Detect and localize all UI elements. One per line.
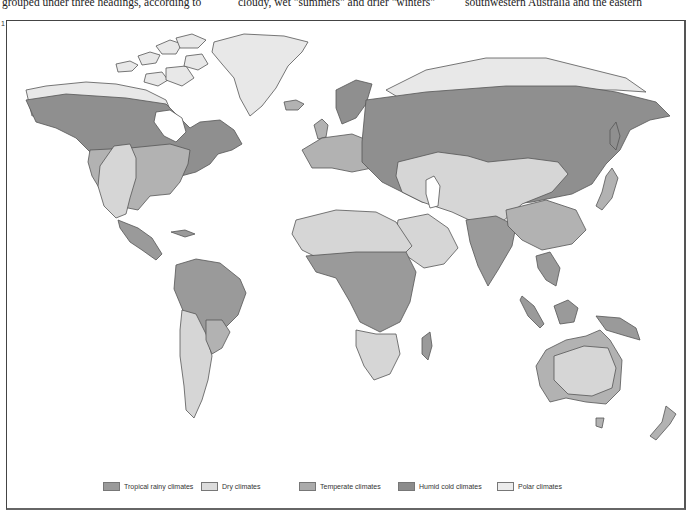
canadian-arctic-islands — [116, 34, 208, 86]
legend-label: Polar climates — [518, 483, 562, 490]
legend-label: Tropical rainy climates — [124, 483, 193, 490]
legend-label: Temperate climates — [320, 483, 381, 490]
borneo — [554, 300, 578, 324]
southeast-asia — [536, 252, 560, 286]
world-climate-map — [6, 20, 686, 480]
legend-swatch-humid-cold — [398, 482, 415, 491]
header-col-1: grouped under three headings, according … — [2, 0, 201, 8]
legend-label: Dry climates — [222, 483, 261, 490]
caribbean-islands — [171, 230, 195, 237]
figure-number: 1 — [1, 20, 5, 27]
legend-item-tropical-rainy: Tropical rainy climates — [103, 482, 193, 491]
tasmania — [596, 418, 604, 428]
map-legend: Tropical rainy climates Dry climates Tem… — [0, 482, 692, 496]
legend-item-dry: Dry climates — [201, 482, 261, 491]
legend-swatch-tropical-rainy — [103, 482, 120, 491]
australia-dry — [554, 346, 616, 396]
madagascar — [422, 332, 432, 360]
sumatra — [520, 296, 544, 328]
africa-dry-south — [356, 330, 400, 380]
legend-item-temperate: Temperate climates — [299, 482, 381, 491]
legend-item-polar: Polar climates — [497, 482, 562, 491]
header-col-2: cloudy, wet "summers" and drier "winters… — [238, 0, 435, 8]
british-isles — [314, 119, 328, 139]
legend-item-humid-cold: Humid cold climates — [398, 482, 482, 491]
legend-label: Humid cold climates — [419, 483, 482, 490]
new-zealand — [650, 406, 676, 440]
header-col-3: southwestern Australia and the eastern — [465, 0, 642, 8]
central-america — [118, 220, 162, 260]
china-temperate — [506, 200, 586, 250]
japan — [596, 168, 618, 210]
legend-swatch-polar — [497, 482, 514, 491]
africa-tropical — [306, 252, 416, 332]
page-header-text: grouped under three headings, according … — [0, 0, 692, 8]
legend-swatch-dry — [201, 482, 218, 491]
legend-swatch-temperate — [299, 482, 316, 491]
iceland — [284, 100, 304, 110]
